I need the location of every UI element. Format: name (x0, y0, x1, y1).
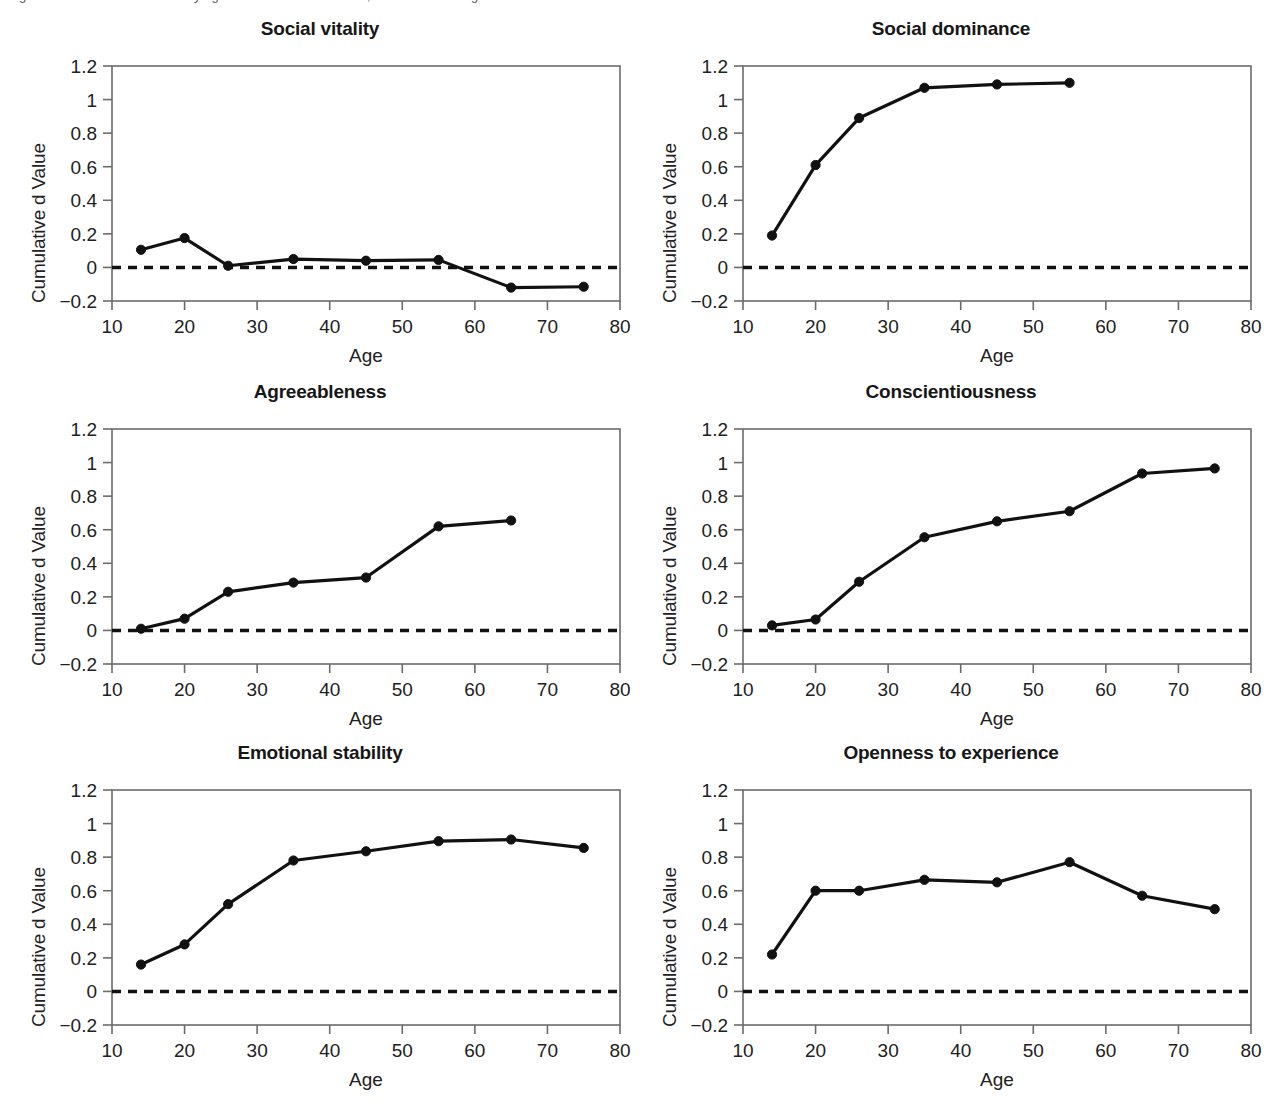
x-tick-label: 20 (174, 679, 195, 700)
y-tick-label: 0.8 (71, 123, 97, 144)
y-tick-label: 1.2 (702, 419, 728, 440)
x-tick-label: 60 (1095, 679, 1116, 700)
data-point-marker (855, 113, 864, 122)
x-tick-label: 50 (1023, 316, 1044, 337)
plot-frame (112, 429, 620, 664)
x-tick-label: 80 (1240, 316, 1261, 337)
data-point-marker (507, 835, 516, 844)
y-tick-label: 0.2 (702, 587, 728, 608)
data-series-line (772, 468, 1215, 625)
x-tick-label: 50 (1023, 1040, 1044, 1061)
plot-frame (743, 429, 1251, 664)
y-tick-label: 0.8 (702, 847, 728, 868)
chart-panel: Openness to experienceCumulative d Value… (631, 742, 1271, 1102)
y-tick-label: 1.2 (71, 780, 97, 801)
y-tick-label: −0.2 (690, 654, 728, 675)
data-point-marker (1138, 469, 1147, 478)
data-point-marker (1210, 905, 1219, 914)
y-tick-label: 0.4 (71, 553, 98, 574)
data-point-marker (992, 80, 1001, 89)
data-point-marker (136, 624, 145, 633)
y-tick-label: 0.2 (71, 948, 97, 969)
x-tick-label: 80 (1240, 679, 1261, 700)
x-tick-label: 10 (732, 1040, 753, 1061)
x-tick-label: 80 (609, 316, 630, 337)
x-tick-label: 30 (247, 679, 268, 700)
y-tick-label: 0.4 (71, 190, 98, 211)
y-tick-label: 1 (717, 814, 728, 835)
data-point-marker (992, 517, 1001, 526)
data-point-marker (1210, 464, 1219, 473)
x-tick-label: 10 (732, 679, 753, 700)
y-tick-label: 0.2 (702, 224, 728, 245)
x-tick-label: 70 (1168, 316, 1189, 337)
data-point-marker (180, 233, 189, 242)
y-tick-label: 0.2 (71, 587, 97, 608)
y-tick-label: −0.2 (59, 1015, 97, 1036)
data-point-marker (180, 940, 189, 949)
y-tick-label: 0.2 (71, 224, 97, 245)
data-point-marker (767, 621, 776, 630)
x-tick-label: 10 (101, 679, 122, 700)
y-tick-label: 0.6 (71, 520, 97, 541)
x-tick-label: 10 (732, 316, 753, 337)
y-tick-label: −0.2 (59, 654, 97, 675)
y-tick-label: 0 (717, 981, 728, 1002)
x-tick-label: 20 (174, 1040, 195, 1061)
x-tick-label: 30 (247, 1040, 268, 1061)
data-point-marker (992, 878, 1001, 887)
chart-panel: AgreeablenessCumulative d ValueAge−0.200… (0, 381, 640, 741)
x-tick-label: 70 (537, 316, 558, 337)
data-point-marker (811, 160, 820, 169)
data-point-marker (767, 231, 776, 240)
y-tick-label: 1.2 (71, 419, 97, 440)
data-series-line (141, 520, 511, 628)
x-tick-label: 70 (1168, 1040, 1189, 1061)
data-point-marker (224, 261, 233, 270)
y-tick-label: 0 (86, 981, 97, 1002)
data-point-marker (507, 283, 516, 292)
data-point-marker (434, 837, 443, 846)
y-tick-label: 0.6 (702, 881, 728, 902)
y-tick-label: −0.2 (690, 291, 728, 312)
plot-frame (112, 790, 620, 1025)
chart-panel: Social vitalityCumulative d ValueAge−0.2… (0, 18, 640, 378)
y-tick-label: 0.8 (71, 847, 97, 868)
x-tick-label: 60 (464, 679, 485, 700)
y-tick-label: 0 (86, 620, 97, 641)
y-tick-label: 0.8 (702, 123, 728, 144)
y-tick-label: 1 (86, 90, 97, 111)
x-tick-label: 10 (101, 316, 122, 337)
x-tick-label: 80 (609, 1040, 630, 1061)
data-point-marker (920, 875, 929, 884)
chart-panel: Emotional stabilityCumulative d ValueAge… (0, 742, 640, 1102)
y-tick-label: 0.4 (702, 553, 729, 574)
data-point-marker (1065, 858, 1074, 867)
x-tick-label: 60 (464, 1040, 485, 1061)
y-tick-label: −0.2 (59, 291, 97, 312)
y-tick-label: 1 (86, 453, 97, 474)
y-tick-label: 0.4 (702, 190, 729, 211)
data-series-line (772, 83, 1070, 236)
plot-area: −0.200.20.40.60.811.21020304050607080 (631, 18, 1271, 378)
x-tick-label: 50 (1023, 679, 1044, 700)
y-tick-label: 0 (717, 257, 728, 278)
y-tick-label: 0.4 (71, 914, 98, 935)
x-tick-label: 30 (878, 679, 899, 700)
x-tick-label: 40 (950, 316, 971, 337)
data-point-marker (579, 282, 588, 291)
data-point-marker (289, 856, 298, 865)
data-point-marker (507, 516, 516, 525)
plot-frame (743, 66, 1251, 301)
data-point-marker (289, 578, 298, 587)
x-tick-label: 40 (319, 679, 340, 700)
y-tick-label: 1.2 (702, 56, 728, 77)
data-point-marker (224, 900, 233, 909)
data-point-marker (811, 886, 820, 895)
data-point-marker (136, 245, 145, 254)
x-tick-label: 60 (1095, 1040, 1116, 1061)
x-tick-label: 40 (950, 679, 971, 700)
x-tick-label: 40 (319, 316, 340, 337)
y-tick-label: 0.4 (702, 914, 729, 935)
x-tick-label: 60 (1095, 316, 1116, 337)
